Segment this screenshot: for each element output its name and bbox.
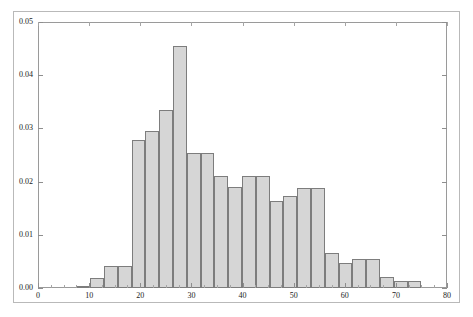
y-axis-tick-label: 0.04 bbox=[19, 71, 33, 79]
y-axis-tick-label: 0.02 bbox=[19, 178, 33, 186]
x-axis-tick bbox=[140, 283, 141, 288]
histogram-bar bbox=[283, 196, 297, 288]
histogram-bar bbox=[201, 153, 215, 288]
histogram-bar bbox=[311, 188, 325, 288]
x-axis-tick bbox=[345, 283, 346, 288]
x-axis-minor-tick bbox=[204, 285, 205, 288]
x-axis-tick-top bbox=[345, 22, 346, 26]
x-axis-tick bbox=[243, 283, 244, 288]
x-axis-minor-tick bbox=[166, 285, 167, 288]
x-axis-tick-label: 70 bbox=[392, 291, 400, 300]
x-axis-tick-top bbox=[294, 22, 295, 26]
y-axis-tick bbox=[38, 75, 43, 76]
histogram-bar bbox=[242, 176, 256, 288]
x-axis-tick-top bbox=[38, 22, 39, 26]
y-axis-tick-right bbox=[442, 128, 447, 129]
y-axis-tick-right bbox=[442, 235, 447, 236]
x-axis-minor-tick bbox=[370, 285, 371, 288]
x-axis-minor-tick bbox=[383, 285, 384, 288]
y-axis-tick-label: 0.01 bbox=[19, 231, 33, 239]
x-axis-tick bbox=[447, 283, 448, 288]
x-axis-tick-label: 40 bbox=[239, 291, 247, 300]
x-axis-minor-tick bbox=[409, 285, 410, 288]
x-axis-tick-top bbox=[89, 22, 90, 26]
x-axis-tick-label: 50 bbox=[290, 291, 298, 300]
histogram-bar bbox=[214, 176, 228, 288]
histogram-bar bbox=[270, 201, 284, 288]
x-axis-tick-label: 30 bbox=[187, 291, 195, 300]
x-axis-tick-label: 20 bbox=[136, 291, 144, 300]
x-axis-tick-label: 60 bbox=[341, 291, 349, 300]
x-axis-minor-tick bbox=[306, 285, 307, 288]
histogram-bar bbox=[325, 253, 339, 288]
y-axis-tick-right bbox=[442, 182, 447, 183]
x-axis-minor-tick bbox=[332, 285, 333, 288]
histogram-bar bbox=[159, 110, 173, 288]
histogram-bar bbox=[173, 46, 187, 288]
histogram-bar bbox=[187, 153, 201, 288]
x-axis-tick-top bbox=[140, 22, 141, 26]
x-axis-tick bbox=[396, 283, 397, 288]
x-axis-tick-label: 80 bbox=[443, 291, 451, 300]
histogram-bar bbox=[145, 131, 159, 288]
histogram-bar bbox=[380, 277, 394, 288]
x-axis-minor-tick bbox=[230, 285, 231, 288]
histogram-bar bbox=[132, 140, 146, 288]
y-axis-tick-right bbox=[442, 288, 447, 289]
x-axis-minor-tick bbox=[217, 285, 218, 288]
histogram-bar bbox=[118, 266, 132, 288]
histogram-bar bbox=[408, 281, 422, 288]
x-axis-minor-tick bbox=[153, 285, 154, 288]
x-axis-minor-tick bbox=[127, 285, 128, 288]
y-axis-tick-right bbox=[442, 75, 447, 76]
y-axis-tick bbox=[38, 128, 43, 129]
y-axis-tick-label: 0.05 bbox=[19, 18, 33, 26]
histogram-bar bbox=[366, 259, 380, 288]
histogram-bar bbox=[352, 259, 366, 288]
x-axis-tick-top bbox=[396, 22, 397, 26]
histogram-bar bbox=[76, 286, 90, 288]
x-axis-tick-top bbox=[243, 22, 244, 26]
x-axis-minor-tick bbox=[179, 285, 180, 288]
x-axis-tick bbox=[89, 283, 90, 288]
histogram-bar bbox=[297, 188, 311, 288]
y-axis-tick bbox=[38, 235, 43, 236]
x-axis-tick-top bbox=[447, 22, 448, 26]
x-axis-minor-tick bbox=[51, 285, 52, 288]
x-axis-minor-tick bbox=[421, 285, 422, 288]
x-axis-minor-tick bbox=[268, 285, 269, 288]
x-axis-minor-tick bbox=[64, 285, 65, 288]
x-axis-tick-label: 10 bbox=[85, 291, 93, 300]
x-axis-tick bbox=[294, 283, 295, 288]
x-axis-minor-tick bbox=[319, 285, 320, 288]
histogram-bar bbox=[256, 176, 270, 288]
x-axis-minor-tick bbox=[281, 285, 282, 288]
x-axis-minor-tick bbox=[115, 285, 116, 288]
y-axis-tick bbox=[38, 288, 43, 289]
x-axis-minor-tick bbox=[102, 285, 103, 288]
x-axis-tick-top bbox=[191, 22, 192, 26]
plot-area bbox=[38, 22, 447, 288]
y-axis-tick-label: 0.03 bbox=[19, 124, 33, 132]
x-axis-minor-tick bbox=[76, 285, 77, 288]
y-axis-tick bbox=[38, 182, 43, 183]
histogram-figure: 0.000.010.020.030.040.050102030405060708… bbox=[0, 0, 473, 317]
x-axis-tick-label: 0 bbox=[36, 291, 40, 300]
x-axis-minor-tick bbox=[358, 285, 359, 288]
y-axis-tick-label: 0.00 bbox=[19, 284, 33, 292]
x-axis-minor-tick bbox=[434, 285, 435, 288]
x-axis-tick bbox=[191, 283, 192, 288]
x-axis-minor-tick bbox=[255, 285, 256, 288]
histogram-bar bbox=[228, 187, 242, 288]
x-axis-tick bbox=[38, 283, 39, 288]
